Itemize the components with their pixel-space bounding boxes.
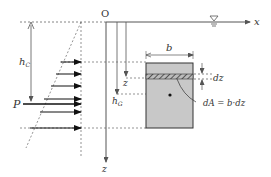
pressure-arrows [30, 62, 81, 128]
pressure-distribution-edge [26, 22, 81, 148]
free-surface-icon [210, 16, 218, 26]
strip-depth-label: z [122, 78, 128, 88]
centroid-point [168, 93, 171, 96]
force-label: P [12, 98, 21, 111]
hC-label: hC [19, 56, 30, 68]
area-element-label: dA = b·dz [203, 98, 246, 108]
hG-label: hG [112, 96, 123, 107]
z-axis-label: z [101, 164, 107, 174]
area-strip [146, 74, 193, 79]
hydrostatic-diagram: x O z z hG P hC b [0, 0, 271, 177]
x-axis-label: x [254, 16, 260, 27]
strip-thickness-label: dz [213, 73, 224, 83]
dz-dimension [194, 63, 212, 90]
width-label: b [166, 42, 172, 53]
origin-label: O [101, 8, 109, 19]
